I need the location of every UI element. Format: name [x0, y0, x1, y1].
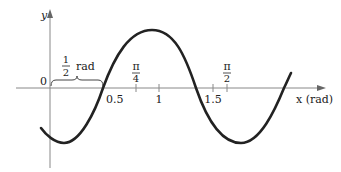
- tick-label-1-5: 1.5: [204, 93, 222, 106]
- x-axis-arrow-icon: [317, 85, 326, 91]
- tick-label-0-5: 0.5: [106, 93, 124, 106]
- tick-label-pi-over-2-den: 2: [224, 73, 230, 84]
- half-rad-brace: [51, 76, 103, 86]
- x-axis-label: x (rad): [296, 93, 333, 106]
- sinusoid-diagram: y 0 x (rad) 1 2 rad 0.5 π 4 1 1.5 π 2: [0, 0, 341, 172]
- brace-label-unit: rad: [76, 60, 95, 73]
- y-axis-arrow-icon: [47, 9, 53, 18]
- tick-label-pi-over-4-num: π: [132, 60, 139, 73]
- brace-label-denominator: 2: [63, 67, 69, 78]
- brace-label-numerator: 1: [63, 54, 69, 65]
- tick-label-pi-over-4-den: 4: [133, 73, 139, 84]
- tick-label-pi-over-2-num: π: [223, 60, 230, 73]
- origin-label: 0: [40, 75, 47, 88]
- tick-label-1: 1: [156, 93, 163, 106]
- y-axis-label: y: [40, 9, 48, 22]
- sine-curve: [41, 30, 291, 143]
